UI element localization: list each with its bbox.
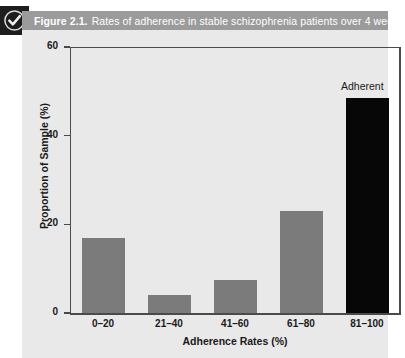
bar [148, 295, 191, 313]
x-axis-tick-label: 21–40 [136, 318, 202, 329]
chart-plot-area: 0204060 Proportion of Sample (%) 0–2021–… [22, 30, 388, 358]
y-axis-title: Proportion of Sample (%) [38, 66, 50, 266]
bar [280, 211, 323, 313]
x-axis-title: Adherence Rates (%) [70, 335, 400, 347]
bar [346, 98, 389, 313]
bar-annotation: Adherent [341, 80, 384, 92]
x-axis-line [70, 313, 401, 315]
y-axis-tick [64, 135, 70, 137]
y-axis-tick [64, 224, 70, 226]
y-axis-tick [64, 46, 70, 48]
y-axis-tick [64, 312, 70, 314]
x-axis-tick-label: 41–60 [202, 318, 268, 329]
plot-right-edge [399, 47, 401, 313]
bar [82, 238, 125, 313]
figure-number: Figure 2.1. [34, 15, 88, 27]
bar [214, 280, 257, 313]
figure-caption: Rates of adherence in stable schizophren… [92, 15, 405, 27]
y-axis-tick-label: 0 [24, 306, 58, 317]
x-axis-tick-label: 81–100 [334, 318, 400, 329]
y-axis-tick-label: 60 [24, 40, 58, 51]
figure-caption-text: Figure 2.1.Rates of adherence in stable … [34, 15, 405, 27]
x-axis-tick-label: 0–20 [70, 318, 136, 329]
x-axis-tick-label: 61–80 [268, 318, 334, 329]
figure-caption-bar: Figure 2.1.Rates of adherence in stable … [22, 11, 388, 30]
